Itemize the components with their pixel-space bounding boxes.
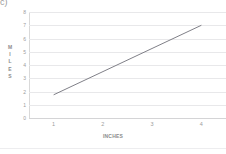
- y-axis-title: M I L E S: [5, 44, 15, 80]
- y-axis-title-letter: S: [5, 73, 15, 80]
- y-axis-title-letter: I: [5, 51, 15, 58]
- series-polyline: [54, 25, 202, 95]
- data-series-line: [29, 12, 226, 118]
- y-axis-tick-label: 3: [16, 75, 26, 81]
- y-axis-tick-label: 2: [16, 89, 26, 95]
- y-axis-title-letter: L: [5, 58, 15, 65]
- y-axis-tick-label: 5: [16, 49, 26, 55]
- y-axis-tick-label: 8: [16, 9, 26, 15]
- plot-area: [29, 12, 226, 118]
- y-axis-tick-label: 6: [16, 36, 26, 42]
- y-axis-tick-label: 4: [16, 62, 26, 68]
- y-axis-title-letter: M: [5, 44, 15, 51]
- y-axis-tick-label: 1: [16, 102, 26, 108]
- y-axis-tick-label: 7: [16, 22, 26, 28]
- x-axis-line: [29, 118, 226, 119]
- x-axis-tick-label: 4: [194, 121, 208, 128]
- y-axis-title-letter: E: [5, 66, 15, 73]
- x-axis-tick-label: 1: [47, 121, 61, 128]
- chart-figure: c) M I L E S 8 7 6 5 4 3 2 1 0 1 2 3: [0, 0, 226, 154]
- x-axis-tick-label: 2: [96, 121, 110, 128]
- x-axis-tick-labels: 1 2 3 4: [29, 121, 226, 131]
- y-axis-tick-label: 0: [16, 115, 26, 121]
- part-label: c): [0, 0, 8, 7]
- x-axis-tick-label: 3: [145, 121, 159, 128]
- y-axis-tick-labels: 8 7 6 5 4 3 2 1 0: [16, 12, 26, 118]
- page-rule: [0, 148, 226, 149]
- x-axis-title: INCHES: [0, 133, 226, 140]
